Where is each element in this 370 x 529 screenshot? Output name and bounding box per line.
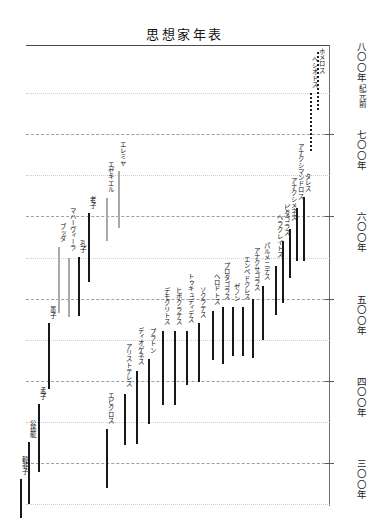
lifespan-bar[interactable] (162, 331, 164, 405)
lifespan-bar[interactable] (38, 404, 40, 472)
person-label: ゼノン (233, 283, 240, 302)
lifespan-bar[interactable] (222, 307, 224, 365)
year-label-400: 四〇〇年 (336, 377, 366, 419)
person-label: プラトン (149, 328, 156, 353)
gridline-minor-250 (26, 504, 330, 505)
lifespan-bar[interactable] (212, 311, 214, 360)
person-label: トゥキュディデス (187, 273, 194, 323)
lifespan-bar[interactable] (310, 93, 312, 151)
year-label-800: 八〇〇年紀元前 (336, 42, 366, 108)
lifespan-bar[interactable] (78, 257, 80, 316)
lifespan-bar[interactable] (118, 171, 120, 228)
gridline-major-300 (26, 463, 330, 464)
timeline-chart: 思想家年表 八〇〇年紀元前七〇〇年六〇〇年五〇〇年四〇〇年三〇〇年 ホメロスヘシ… (0, 0, 370, 529)
person-label: エンペドクレス (243, 256, 250, 299)
year-label-500: 五〇〇年 (336, 295, 366, 337)
gridline-minor-650 (26, 175, 330, 176)
gridline-major-700 (26, 134, 330, 135)
person-label: 公孫龍 (29, 419, 36, 438)
lifespan-bar[interactable] (262, 286, 264, 339)
person-label: プロタゴラス (223, 262, 230, 299)
axis-tick-500 (325, 299, 334, 300)
lifespan-bar[interactable] (232, 307, 234, 356)
lifespan-bar[interactable] (289, 229, 291, 278)
year-number: 八〇〇年 (336, 42, 366, 84)
gridline-minor-450 (26, 340, 330, 341)
chart-top-border (26, 45, 330, 46)
person-label: ピタゴラス (283, 204, 290, 235)
axis-tick-300 (325, 463, 334, 464)
axis-tick-700 (325, 134, 334, 135)
person-label: アリストテレス (125, 343, 132, 386)
lifespan-bar[interactable] (106, 429, 108, 487)
lifespan-bar[interactable] (136, 371, 138, 444)
axis-tick-600 (325, 216, 334, 217)
person-label: エピクロス (107, 392, 114, 423)
person-label: 孟子 (39, 387, 46, 399)
person-label: 老子 (89, 196, 96, 208)
year-label-300: 三〇〇年 (336, 459, 366, 501)
person-label: ブッダ (59, 223, 66, 242)
person-label: デモクリトス (163, 287, 170, 324)
person-label: アナクシメネス (290, 177, 297, 220)
year-axis-line (329, 45, 330, 506)
lifespan-bar[interactable] (186, 331, 188, 384)
lifespan-bar[interactable] (252, 299, 254, 358)
gridline-minor-350 (26, 422, 330, 423)
lifespan-bar[interactable] (124, 394, 126, 445)
person-label: アナクシマンドロス (297, 143, 304, 199)
lifespan-bar[interactable] (28, 442, 30, 504)
lifespan-bar[interactable] (303, 197, 305, 261)
lifespan-bar[interactable] (148, 359, 150, 425)
person-label: エゼキエル (107, 161, 114, 192)
gridline-minor-750 (26, 93, 330, 94)
gridline-major-400 (26, 381, 330, 382)
lifespan-bar[interactable] (88, 213, 90, 282)
person-label: ヘシオドス (311, 56, 318, 87)
lifespan-bar[interactable] (20, 479, 22, 518)
lifespan-bar[interactable] (106, 198, 108, 241)
lifespan-bar[interactable] (174, 331, 176, 405)
page-title: 思想家年表 (0, 24, 370, 43)
person-label: ホメロス (318, 48, 325, 73)
lifespan-bar[interactable] (275, 266, 277, 315)
lifespan-bar[interactable] (242, 307, 244, 356)
person-label: パルメニデス (263, 242, 270, 279)
person-label: ヘロドトス (213, 273, 220, 304)
person-label: アナクサゴラス (253, 247, 260, 290)
era-prefix: 紀元前 (336, 84, 366, 108)
lifespan-bar[interactable] (198, 323, 200, 381)
person-label: 孔子 (79, 240, 86, 252)
year-label-600: 六〇〇年 (336, 212, 366, 254)
person-label: 韓非子 (21, 456, 28, 475)
person-label: エレミヤ (119, 141, 126, 166)
year-label-700: 七〇〇年 (336, 130, 366, 172)
person-label: 墨子 (49, 306, 56, 318)
lifespan-bar[interactable] (68, 258, 70, 317)
person-label: ディオゲネス (137, 327, 144, 364)
person-label: ヒポクラテス (175, 287, 182, 324)
axis-tick-400 (325, 381, 334, 382)
person-label: ヘラクレイトス (276, 214, 283, 257)
person-label: ソクラテス (199, 286, 206, 317)
lifespan-bar[interactable] (48, 323, 50, 389)
person-label: タレス (304, 173, 311, 192)
person-label: マハーヴィーラ (69, 207, 76, 250)
gridline-minor-550 (26, 258, 330, 259)
lifespan-bar[interactable] (58, 247, 60, 313)
